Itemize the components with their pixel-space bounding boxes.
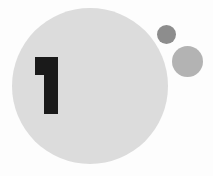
numeral-value-text: 1 — [0, 0, 1, 1]
graphic-canvas: 1 — [0, 0, 213, 176]
accent-circle-medium-shape — [172, 46, 203, 77]
numeral-one-glyph — [35, 57, 58, 114]
accent-circle-dark-shape — [157, 25, 176, 44]
numeral-one-stem — [44, 57, 58, 114]
numeral-one-flag-drop — [35, 57, 44, 75]
